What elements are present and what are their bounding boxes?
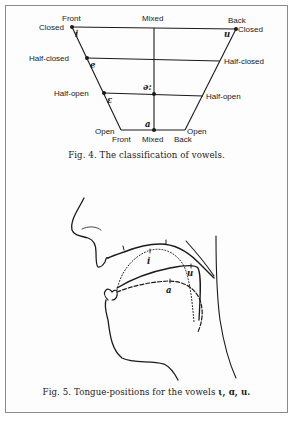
figure5-caption-text: Fig. 5. Tongue-positions for the vowels [43,387,219,397]
figure5-caption-vowels: ι, ɑ, u. [218,387,250,397]
tongue-label-u: u [187,268,193,278]
tongue-a [117,281,202,332]
palate-tick-1 [123,246,124,250]
figure5-caption: Fig. 5. Tongue-positions for the vowels … [0,387,293,397]
nose-lip-outline [72,198,108,267]
tongue-label-i: i [147,256,150,266]
chin-jaw [105,300,178,380]
nostril [82,227,101,230]
tongue-label-a: a [166,285,172,295]
tongue-position-diagram: i u a [0,0,293,421]
lower-teeth [104,289,117,300]
tongue-i [117,249,194,322]
pharynx-wall [216,236,236,378]
